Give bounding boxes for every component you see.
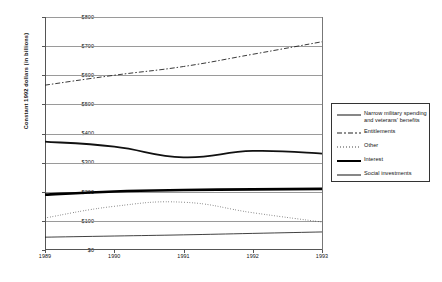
- legend-swatch-icon: [337, 171, 361, 179]
- x-axis-tick-label: 1991: [169, 253, 199, 259]
- legend-swatch-icon: [337, 157, 361, 165]
- y-axis-title: Constant 1992 dollars (in billions): [23, 11, 29, 151]
- chart-figure: Constant 1992 dollars (in billions) $0$1…: [0, 0, 442, 282]
- x-axis-tick-mark: [322, 250, 323, 253]
- legend-swatch-icon: [337, 143, 361, 151]
- x-axis-tick-label: 1990: [99, 253, 129, 259]
- legend-item[interactable]: Entitlements: [337, 128, 395, 137]
- legend-item[interactable]: Other: [337, 142, 378, 151]
- x-axis-tick-mark: [184, 250, 185, 253]
- legend-swatch-icon: [337, 129, 361, 137]
- x-axis-tick-label: 1992: [238, 253, 268, 259]
- legend-item[interactable]: Social investments: [337, 170, 412, 179]
- series-lines: [45, 17, 322, 250]
- legend-item-label: Interest: [364, 156, 383, 163]
- legend-swatch-icon: [337, 111, 361, 119]
- series-line: [45, 142, 322, 158]
- legend-item[interactable]: Narrow military spending and veterans' b…: [337, 110, 427, 124]
- x-axis-tick-label: 1989: [30, 253, 60, 259]
- x-axis-tick-label: 1993: [307, 253, 337, 259]
- legend-item-label: Entitlements: [364, 128, 395, 135]
- legend-item[interactable]: Interest: [337, 156, 383, 165]
- x-axis-tick-mark: [45, 250, 46, 253]
- series-line: [45, 189, 322, 195]
- legend-item-label: Narrow military spending and veterans' b…: [364, 110, 427, 124]
- series-line: [45, 232, 322, 237]
- series-line: [45, 42, 322, 85]
- x-axis-tick-mark: [253, 250, 254, 253]
- plot-right-border: [322, 17, 323, 250]
- legend-item-label: Other: [364, 142, 378, 149]
- x-axis-tick-mark: [114, 250, 115, 253]
- legend-item-label: Social investments: [364, 170, 412, 177]
- chart-legend: Narrow military spending and veterans' b…: [331, 103, 430, 182]
- series-line: [45, 202, 322, 222]
